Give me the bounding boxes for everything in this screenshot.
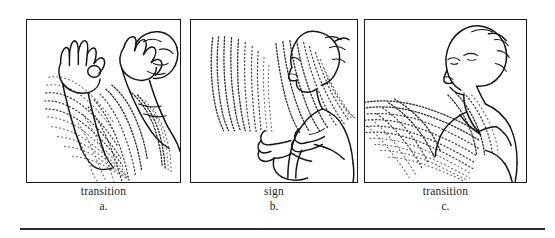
panel-c-drawing (365, 20, 526, 182)
panel-b-drawing (191, 20, 357, 182)
figure-container: transition a. sign b. transition c. (0, 0, 555, 238)
panel-c (364, 19, 527, 183)
caption-a-word: transition (26, 185, 181, 198)
body-shoulders-c (435, 86, 517, 182)
caption-c-letter: c. (364, 200, 527, 213)
caption-b-letter: b. (190, 200, 358, 213)
right-hand-and-head-a (120, 32, 180, 152)
body-and-hands-b (258, 109, 354, 182)
caption-panel-a: transition a. (26, 185, 181, 213)
caption-row: transition a. sign b. transition c. (26, 185, 527, 219)
panel-b (190, 19, 358, 183)
caption-a-letter: a. (26, 200, 181, 213)
left-hand-ok-a (59, 41, 114, 170)
bottom-horizontal-rule (20, 228, 545, 230)
caption-b-word: sign (190, 185, 358, 198)
caption-c-word: transition (364, 185, 527, 198)
panel-a (26, 19, 181, 183)
motion-trails-c (365, 93, 498, 181)
caption-panel-b: sign b. (190, 185, 358, 213)
motion-trails-b-right-fan (276, 41, 355, 133)
head-three-quarter-c (444, 26, 509, 95)
panel-row (26, 19, 527, 183)
motion-trails-b-left-fan (211, 37, 272, 133)
caption-panel-c: transition c. (364, 185, 527, 213)
motion-trails-a (45, 77, 171, 181)
panel-a-drawing (27, 20, 180, 182)
